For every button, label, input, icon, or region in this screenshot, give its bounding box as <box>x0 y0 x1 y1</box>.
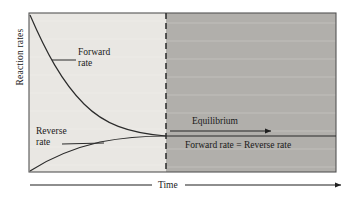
reverse-rate-callout-line2: rate <box>36 137 67 148</box>
diagram-canvas <box>0 0 352 199</box>
equilibrium-reaction-rate-diagram: Reaction rates Forward rate Reverse rate… <box>0 0 352 199</box>
forward-rate-callout-label: Forward rate <box>78 47 110 69</box>
reverse-rate-callout-label: Reverse rate <box>36 126 67 148</box>
x-axis-label: Time <box>158 180 178 190</box>
forward-rate-callout-line2: rate <box>78 58 110 69</box>
rate-equality-label: Forward rate = Reverse rate <box>185 140 291 150</box>
reverse-rate-callout-line1: Reverse <box>36 126 67 137</box>
y-axis-label: Reaction rates <box>15 7 25 107</box>
forward-rate-callout-line1: Forward <box>78 47 110 58</box>
equilibrium-label: Equilibrium <box>192 116 238 126</box>
